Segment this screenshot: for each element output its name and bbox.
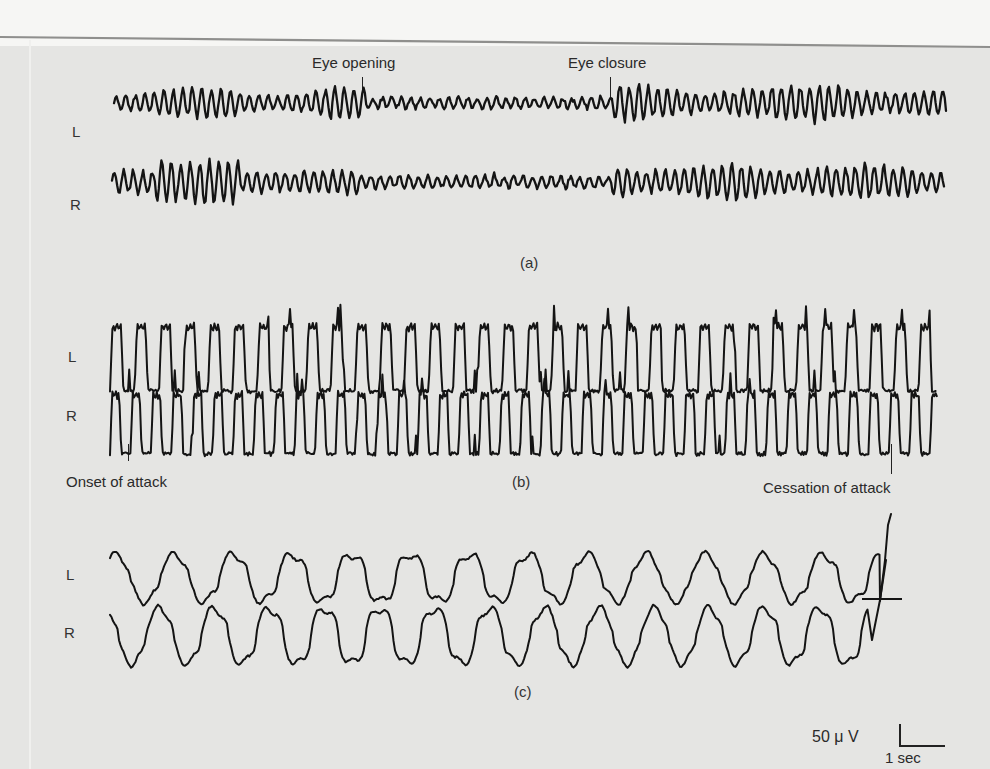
trace-panel-c-left xyxy=(110,514,891,606)
eeg-figure: L R Eye opening Eye closure (a) L R Onse… xyxy=(0,0,990,769)
eeg-traces xyxy=(0,0,990,769)
trace-panel-a-right xyxy=(112,159,944,205)
trace-panel-a-left xyxy=(114,84,946,124)
trace-panel-b-left xyxy=(110,305,936,394)
trace-panel-c-right xyxy=(110,560,886,668)
